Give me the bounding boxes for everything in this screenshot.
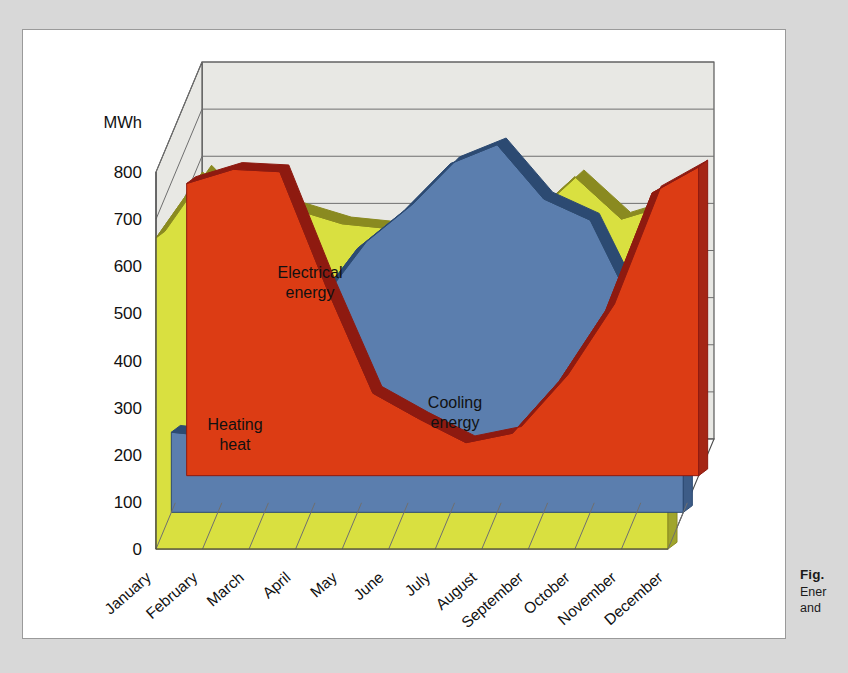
svg-text:energy: energy	[286, 284, 335, 301]
y-axis-tick-label: 600	[114, 257, 142, 276]
figure-caption-line-1: Ener	[800, 584, 848, 601]
y-axis-tick-label: 400	[114, 352, 142, 371]
x-axis-tick-label: April	[259, 568, 294, 601]
y-axis-tick-label: 0	[133, 540, 142, 559]
svg-text:energy: energy	[431, 414, 480, 431]
y-axis-unit-label: MWh	[104, 113, 143, 131]
figure-caption: Fig. Ener and	[800, 566, 848, 617]
x-axis-tick-label: March	[203, 568, 247, 609]
svg-text:Cooling: Cooling	[428, 394, 482, 411]
energy-area-chart: 0100200300400500600700800MWhHeatingheatC…	[23, 30, 785, 638]
x-axis-tick-label: July	[401, 568, 433, 599]
svg-text:heat: heat	[219, 436, 251, 453]
svg-text:Electrical: Electrical	[278, 264, 343, 281]
y-axis-tick-label: 800	[114, 163, 142, 182]
figure-number: Fig.	[800, 566, 848, 584]
figure-root: 0100200300400500600700800MWhHeatingheatC…	[0, 0, 848, 673]
figure-caption-line-2: and	[800, 600, 848, 617]
y-axis-tick-label: 100	[114, 493, 142, 512]
x-axis-tick-label: June	[350, 568, 387, 603]
y-axis-tick-label: 700	[114, 210, 142, 229]
y-axis-tick-label: 300	[114, 399, 142, 418]
chart-panel: 0100200300400500600700800MWhHeatingheatC…	[22, 29, 786, 639]
svg-text:Heating: Heating	[207, 416, 262, 433]
x-axis-tick-label: May	[307, 568, 340, 600]
y-axis-tick-label: 200	[114, 446, 142, 465]
y-axis-tick-label: 500	[114, 304, 142, 323]
x-axis-tick-label: February	[143, 568, 201, 622]
